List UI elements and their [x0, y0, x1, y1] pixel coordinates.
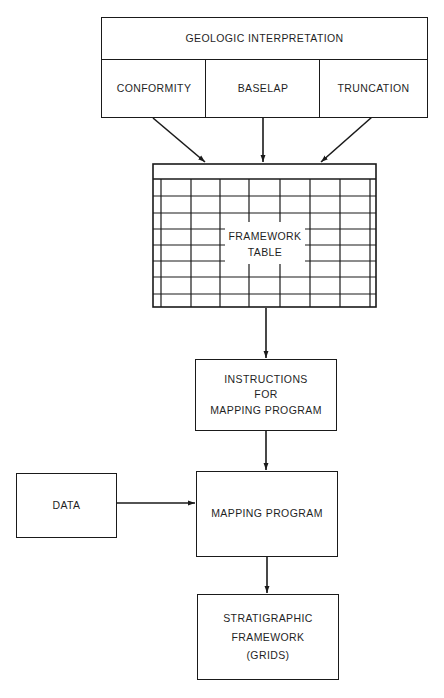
instructions-line1: INSTRUCTIONS	[224, 372, 308, 387]
baselap-box: BASELAP	[205, 59, 321, 118]
mapping-program-box: MAPPING PROGRAM	[196, 471, 338, 557]
output-line1: STRATIGRAPHIC	[223, 609, 313, 627]
data-label: DATA	[52, 498, 80, 513]
arrow-conformity-to-table	[153, 118, 205, 162]
framework-table-line2: TABLE	[228, 244, 302, 260]
framework-table-line1: FRAMEWORK	[228, 228, 302, 244]
geologic-interpretation-title: GEOLOGIC INTERPRETATION	[185, 31, 343, 46]
conformity-label: CONFORMITY	[117, 81, 192, 96]
baselap-label: BASELAP	[238, 81, 289, 96]
output-line3: (GRIDS)	[246, 646, 289, 664]
instructions-line3: MAPPING PROGRAM	[210, 403, 322, 418]
data-box: DATA	[16, 473, 117, 538]
arrow-truncation-to-table	[321, 117, 372, 162]
truncation-box: TRUNCATION	[319, 59, 428, 118]
output-line2: FRAMEWORK	[231, 628, 304, 646]
conformity-box: CONFORMITY	[101, 59, 207, 118]
instructions-line2: FOR	[254, 387, 277, 402]
mapping-program-label: MAPPING PROGRAM	[211, 506, 323, 521]
truncation-label: TRUNCATION	[337, 81, 409, 96]
geologic-interpretation-box: GEOLOGIC INTERPRETATION	[101, 17, 428, 61]
framework-table-label: FRAMEWORK TABLE	[228, 228, 302, 261]
stratigraphic-framework-box: STRATIGRAPHIC FRAMEWORK (GRIDS)	[197, 594, 339, 680]
instructions-box: INSTRUCTIONS FOR MAPPING PROGRAM	[195, 359, 337, 431]
